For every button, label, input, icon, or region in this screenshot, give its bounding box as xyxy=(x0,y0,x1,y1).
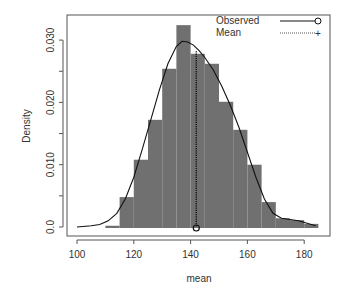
x-tick-label: 120 xyxy=(125,249,142,260)
legend-plus-icon: + xyxy=(315,28,321,39)
histogram-chart: 100120140160180 0.00.0100.0200.030 mean … xyxy=(0,0,345,297)
y-axis-label: Density xyxy=(21,109,32,142)
histogram-bar xyxy=(162,69,176,228)
y-tick-label: 0.030 xyxy=(45,27,56,52)
x-tick-label: 100 xyxy=(69,249,86,260)
histogram-bar xyxy=(205,64,219,228)
legend: Observed Mean + xyxy=(216,15,321,39)
histogram-bar xyxy=(219,102,233,228)
histogram-bar xyxy=(176,25,190,228)
histogram-bar xyxy=(120,197,134,228)
chart-svg: 100120140160180 0.00.0100.0200.030 mean … xyxy=(0,0,345,297)
x-tick-label: 180 xyxy=(296,249,313,260)
y-tick-label: 0.0 xyxy=(45,220,56,234)
x-axis-label: mean xyxy=(186,273,211,284)
histogram-bar xyxy=(148,120,162,228)
histogram-bar xyxy=(105,226,119,228)
histogram-bars xyxy=(105,25,318,228)
y-tick-label: 0.010 xyxy=(45,152,56,177)
histogram-bar xyxy=(191,54,205,228)
legend-label-mean: Mean xyxy=(216,27,241,38)
x-axis: 100120140160180 xyxy=(69,240,313,260)
x-tick-label: 160 xyxy=(239,249,256,260)
legend-circle-icon xyxy=(315,18,321,24)
x-tick-label: 140 xyxy=(182,249,199,260)
y-tick-label: 0.020 xyxy=(45,89,56,114)
y-axis: 0.00.0100.0200.030 xyxy=(45,27,63,234)
legend-label-observed: Observed xyxy=(216,15,259,26)
